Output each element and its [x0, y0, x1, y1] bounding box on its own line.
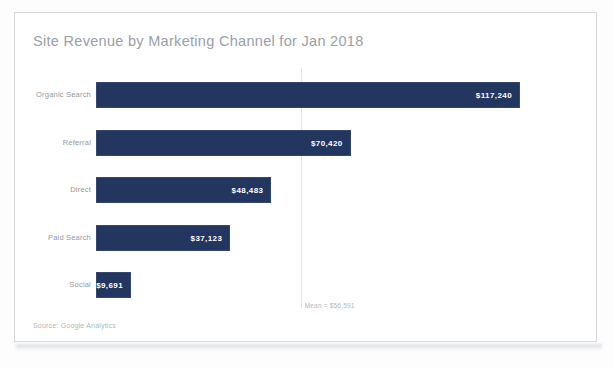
category-label-wrap: Direct: [15, 177, 96, 203]
bar-organic-search[interactable]: $117,240: [96, 82, 520, 108]
chart-card: Site Revenue by Marketing Channel for Ja…: [14, 12, 597, 342]
bar-value-label: $70,420: [311, 131, 343, 157]
bar-row: Organic Search $117,240: [15, 82, 598, 108]
bar-value-label: $48,483: [232, 178, 264, 204]
bar-paid-search[interactable]: $37,123: [96, 225, 230, 251]
bar-value-label: $117,240: [476, 83, 512, 109]
bar-social[interactable]: $9,691: [96, 272, 131, 298]
category-label: Organic Search: [22, 82, 96, 108]
bar-row: Paid Search $37,123: [15, 225, 598, 251]
category-label-wrap: Paid Search: [15, 225, 96, 251]
card-drop-shadow: [16, 344, 602, 351]
bar-row: Social $9,691: [15, 272, 598, 298]
bar-value-label: $37,123: [191, 226, 223, 252]
bar-row: Referral $70,420: [15, 130, 598, 156]
category-label: Social: [22, 272, 96, 298]
bar-direct[interactable]: $48,483: [96, 177, 271, 203]
category-label-wrap: Organic Search: [15, 82, 96, 108]
page-title: Site Revenue by Marketing Channel for Ja…: [33, 33, 364, 49]
category-label: Referral: [22, 130, 96, 156]
page-background: Site Revenue by Marketing Channel for Ja…: [0, 0, 613, 368]
bar-referral[interactable]: $70,420: [96, 130, 351, 156]
category-label: Paid Search: [22, 225, 96, 251]
category-label-wrap: Social: [15, 272, 96, 298]
bar-value-label: $9,691: [96, 273, 123, 299]
source-note: Source: Google Analytics: [33, 322, 116, 329]
mean-annotation-label: Mean = $56,591: [305, 302, 355, 309]
plot-area: Mean = $56,591 Organic Search $117,240 R…: [15, 68, 598, 308]
bar-row: Direct $48,483: [15, 177, 598, 203]
category-label: Direct: [22, 177, 96, 203]
category-label-wrap: Referral: [15, 130, 96, 156]
